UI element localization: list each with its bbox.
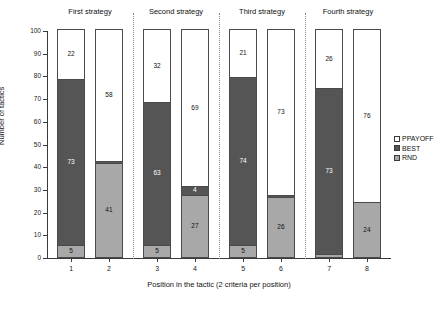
x-tick-label: 3 (155, 265, 159, 272)
chart-figure: Number of tactics 0102030405060708090100… (0, 0, 444, 309)
y-axis-title: Number of tactics (0, 87, 6, 145)
stacked-bar: 27469 (181, 29, 209, 258)
legend: PPAYOFFBESTRND (394, 135, 434, 161)
y-tick (43, 213, 47, 214)
x-tick (281, 258, 282, 262)
y-axis-line (47, 31, 48, 259)
bar-segment-label: 63 (153, 170, 160, 177)
x-tick-label: 6 (279, 265, 283, 272)
y-tick-label: 20 (34, 209, 41, 216)
panel-divider (219, 13, 220, 259)
x-tick-label: 2 (107, 265, 111, 272)
x-tick (367, 258, 368, 262)
bar-segment-label: 5 (155, 248, 159, 255)
bar-segment-best (96, 162, 122, 164)
x-tick-label: 5 (241, 265, 245, 272)
plot-area: 0102030405060708090100First strategySeco… (47, 31, 391, 259)
x-tick (195, 258, 196, 262)
y-tick (43, 99, 47, 100)
y-tick-label: 90 (34, 50, 41, 57)
panel-divider (305, 13, 306, 259)
bar-segment-ppayoff: 21 (230, 30, 256, 78)
x-tick (109, 258, 110, 262)
stacked-bar: 57421 (229, 29, 257, 258)
bar-segment-rnd: 27 (182, 196, 208, 257)
bar-segment-label: 73 (325, 168, 332, 175)
x-axis-title: Position in the tactic (2 criteria per p… (47, 281, 391, 289)
bar-segment-label: 27 (191, 223, 198, 230)
legend-swatch-icon (394, 136, 400, 142)
bar-segment-best: 73 (58, 80, 84, 246)
panel-title: Fourth strategy (323, 8, 373, 16)
y-tick (43, 190, 47, 191)
bar-segment-label: 26 (277, 224, 284, 231)
bar-segment-ppayoff: 26 (316, 30, 342, 89)
y-tick-label: 50 (34, 141, 41, 148)
legend-swatch-icon (394, 155, 400, 161)
bar-segment-label: 73 (277, 109, 284, 116)
y-tick-label: 0 (37, 255, 41, 262)
stacked-bar: 4158 (95, 29, 123, 258)
x-tick-label: 8 (365, 265, 369, 272)
y-tick (43, 167, 47, 168)
panel-title: First strategy (68, 8, 111, 16)
legend-label: PPAYOFF (402, 135, 434, 142)
bar-segment-best: 73 (316, 89, 342, 255)
bar-segment-rnd: 5 (230, 246, 256, 257)
bar-segment-label: 21 (239, 50, 246, 57)
x-tick (329, 258, 330, 262)
y-tick-label: 80 (34, 73, 41, 80)
bar-segment-label: 32 (153, 63, 160, 70)
bar-segment-best: 4 (182, 187, 208, 196)
bar-segment-rnd: 24 (354, 203, 380, 257)
y-tick (43, 122, 47, 123)
bar-segment-best: 74 (230, 78, 256, 246)
bar-segment-label: 5 (241, 248, 245, 255)
x-tick-label: 1 (69, 265, 73, 272)
x-tick-label: 4 (193, 265, 197, 272)
bar-segment-label: 5 (69, 248, 73, 255)
panel-title: Third strategy (239, 8, 285, 16)
bar-segment-rnd: 5 (144, 246, 170, 257)
y-tick (43, 235, 47, 236)
bar-segment-label: 41 (105, 207, 112, 214)
stacked-bar: 2673 (267, 29, 295, 258)
x-tick (243, 258, 244, 262)
bar-segment-ppayoff: 76 (354, 30, 380, 203)
y-tick-label: 100 (30, 28, 41, 35)
y-tick-label: 60 (34, 119, 41, 126)
bar-segment-ppayoff: 73 (268, 30, 294, 196)
x-tick (71, 258, 72, 262)
y-tick (43, 145, 47, 146)
bar-segment-ppayoff: 22 (58, 30, 84, 80)
bar-segment-label: 74 (239, 158, 246, 165)
bar-segment-label: 69 (191, 105, 198, 112)
bar-segment-ppayoff: 32 (144, 30, 170, 103)
bar-segment-best (268, 196, 294, 198)
stacked-bar: 2476 (353, 29, 381, 258)
legend-item: PPAYOFF (394, 135, 434, 142)
stacked-bar: 57322 (57, 29, 85, 258)
bar-segment-label: 22 (67, 51, 74, 58)
y-tick-label: 70 (34, 96, 41, 103)
bar-segment-label: 58 (105, 92, 112, 99)
y-tick (43, 258, 47, 259)
bar-segment-label: 73 (67, 159, 74, 166)
bar-segment-rnd: 5 (58, 246, 84, 257)
y-tick (43, 54, 47, 55)
panel-title: Second strategy (149, 8, 203, 16)
bar-segment-rnd: 41 (96, 164, 122, 257)
y-tick (43, 76, 47, 77)
legend-swatch-icon (394, 145, 400, 151)
bar-segment-ppayoff: 58 (96, 30, 122, 162)
bar-segment-best: 63 (144, 103, 170, 246)
panel-divider (133, 13, 134, 259)
y-tick-label: 40 (34, 164, 41, 171)
x-tick (157, 258, 158, 262)
legend-label: RND (402, 154, 417, 161)
legend-item: BEST (394, 145, 434, 152)
bar-segment-rnd (316, 255, 342, 257)
stacked-bar: 56332 (143, 29, 171, 258)
stacked-bar: 7326 (315, 29, 343, 258)
x-tick-label: 7 (327, 265, 331, 272)
